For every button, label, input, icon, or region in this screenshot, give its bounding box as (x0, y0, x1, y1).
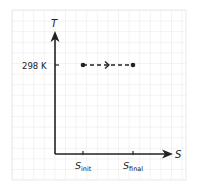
y-tick-label: 298 K (22, 61, 47, 71)
state-point-final (131, 63, 136, 68)
y-axis-label: T (51, 18, 58, 29)
x-axis-label: S (175, 149, 182, 160)
state-point-initial (81, 63, 86, 68)
ts-diagram: T S 298 K Sinit Sfinal (0, 0, 198, 190)
